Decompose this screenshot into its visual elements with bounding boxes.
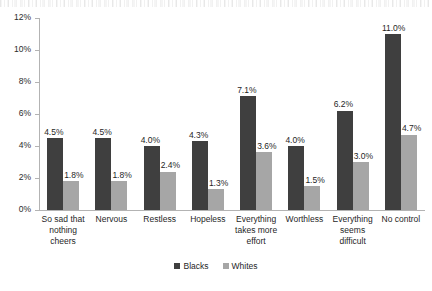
x-axis-category-label: Nervous: [87, 214, 135, 225]
x-axis-line: [39, 210, 425, 211]
x-axis-category-label: Everythingtakes moreeffort: [232, 214, 280, 247]
bar-value-label: 4.5%: [44, 128, 63, 137]
plot-area: 4.5%1.8%4.5%1.8%4.0%2.4%4.3%1.3%7.1%3.6%…: [39, 18, 425, 210]
y-axis-tick-label: 10%: [0, 45, 31, 54]
category-label-line: seems: [329, 225, 377, 236]
bar-value-label: 4.7%: [402, 124, 421, 133]
bar-whites: [304, 186, 320, 210]
chart-container: 12%10%8%6%4%2%0% 4.5%1.8%4.5%1.8%4.0%2.4…: [0, 0, 432, 291]
category-label-line: Restless: [136, 214, 184, 225]
bar-value-label: 3.6%: [257, 142, 276, 151]
bar-value-label: 11.0%: [382, 24, 405, 33]
x-axis-category-label: Worthless: [280, 214, 328, 225]
bar-value-label: 4.5%: [92, 128, 111, 137]
bar-group: 11.0%4.7%: [385, 18, 417, 210]
chart-legend: BlacksWhites: [0, 262, 432, 271]
x-axis-category-label: No control: [377, 214, 425, 225]
category-label-line: difficult: [329, 236, 377, 247]
bar-value-label: 7.1%: [237, 86, 256, 95]
category-label-line: cheers: [39, 236, 87, 247]
bar-blacks: [240, 96, 256, 210]
bar-value-label: 3.0%: [354, 152, 373, 161]
bar-value-label: 4.0%: [285, 136, 304, 145]
bar-value-label: 1.8%: [112, 171, 131, 180]
y-axis-tick: [35, 210, 39, 211]
bar-whites: [256, 152, 272, 210]
bar-value-label: 6.2%: [334, 100, 353, 109]
category-label-line: takes more: [232, 225, 280, 236]
x-axis-category-label: So sad thatnothingcheers: [39, 214, 87, 247]
category-label-line: Everything: [232, 214, 280, 225]
legend-swatch-icon: [174, 263, 180, 269]
x-axis-category-label: Hopeless: [184, 214, 232, 225]
bar-value-label: 4.0%: [141, 136, 160, 145]
category-label-line: Worthless: [280, 214, 328, 225]
scan-artifact: [0, 0, 432, 7]
category-label-line: Everything: [329, 214, 377, 225]
bar-blacks: [337, 111, 353, 210]
category-label-line: Hopeless: [184, 214, 232, 225]
bar-blacks: [288, 146, 304, 210]
bar-blacks: [385, 34, 401, 210]
legend-item-whites[interactable]: Whites: [223, 262, 258, 271]
bar-value-label: 4.3%: [189, 131, 208, 140]
bar-group: 4.0%2.4%: [144, 18, 176, 210]
bar-group: 4.3%1.3%: [192, 18, 224, 210]
bar-whites: [353, 162, 369, 210]
bar-group: 7.1%3.6%: [240, 18, 272, 210]
category-label-line: nothing: [39, 225, 87, 236]
bar-group: 6.2%3.0%: [337, 18, 369, 210]
bar-group: 4.5%1.8%: [95, 18, 127, 210]
category-label-line: No control: [377, 214, 425, 225]
y-axis-tick-label: 4%: [0, 141, 31, 150]
y-axis-tick-label: 8%: [0, 77, 31, 86]
y-axis-tick-label: 12%: [0, 13, 31, 22]
bar-value-label: 1.8%: [64, 171, 83, 180]
bar-blacks: [144, 146, 160, 210]
bar-blacks: [192, 141, 208, 210]
bar-whites: [208, 189, 224, 210]
bar-value-label: 2.4%: [161, 161, 180, 170]
category-label-line: So sad that: [39, 214, 87, 225]
bar-blacks: [95, 138, 111, 210]
bar-whites: [63, 181, 79, 210]
x-axis-category-label: Everythingseemsdifficult: [329, 214, 377, 247]
legend-swatch-icon: [223, 263, 229, 269]
y-axis-tick-label: 0%: [0, 205, 31, 214]
legend-label: Blacks: [183, 262, 208, 271]
bar-value-label: 1.3%: [209, 179, 228, 188]
bar-whites: [401, 135, 417, 210]
bar-group: 4.5%1.8%: [47, 18, 79, 210]
category-label-line: effort: [232, 236, 280, 247]
bar-group: 4.0%1.5%: [288, 18, 320, 210]
legend-item-blacks[interactable]: Blacks: [174, 262, 208, 271]
y-axis-tick-label: 2%: [0, 173, 31, 182]
bar-whites: [111, 181, 127, 210]
bar-value-label: 1.5%: [305, 176, 324, 185]
y-axis-tick-label: 6%: [0, 109, 31, 118]
category-label-line: Nervous: [87, 214, 135, 225]
x-axis-category-label: Restless: [136, 214, 184, 225]
bar-whites: [160, 172, 176, 210]
bar-blacks: [47, 138, 63, 210]
legend-label: Whites: [232, 262, 258, 271]
